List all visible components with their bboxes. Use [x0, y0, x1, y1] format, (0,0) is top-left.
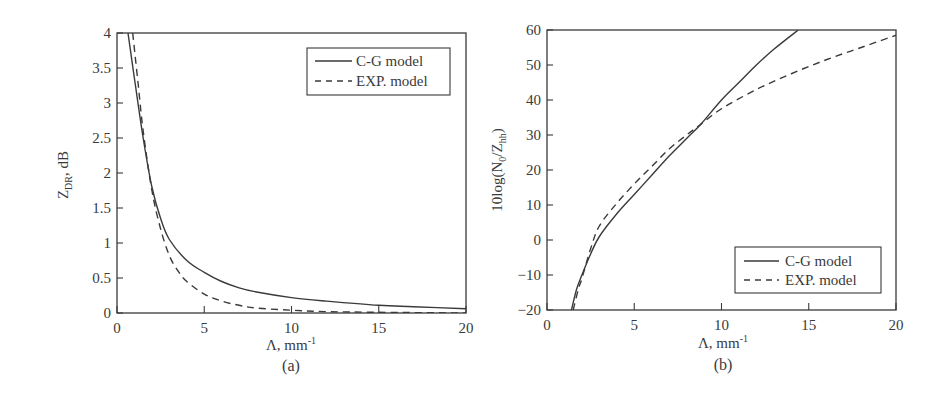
- y-tick-label-a-6: 3: [104, 95, 112, 111]
- chart-panel-b: 05101520−20−100102030405060 10log(N0/Zhh…: [489, 22, 904, 374]
- figure: 0510152000.511.522.533.54 ZDR, dB Λ, mm-…: [0, 0, 948, 403]
- y-label-sub-a: DR: [63, 176, 74, 190]
- x-label-main-a: Λ, mm: [266, 337, 308, 353]
- y-tick-label-a-3: 1.5: [92, 200, 111, 216]
- y-label-main-a: Z: [55, 190, 71, 199]
- x-tick-label-a-2: 10: [284, 320, 299, 336]
- x-tick-label-a-3: 15: [371, 320, 386, 336]
- y-tick-label-a-2: 1: [104, 235, 112, 251]
- y-axis-label-text-a: ZDR, dB: [55, 151, 74, 199]
- legend-label-exp-a: EXP. model: [356, 73, 428, 89]
- x-axis-label-a: Λ, mm-1: [266, 335, 316, 353]
- x-tick-label-a-4: 20: [459, 320, 474, 336]
- x-tick-label-b-3: 15: [801, 317, 816, 333]
- y-tick-label-b-4: 20: [526, 162, 541, 178]
- y-tick-label-b-2: 0: [534, 232, 542, 248]
- y-label-tail-b: ): [489, 128, 506, 133]
- y-tick-label-b-3: 10: [526, 197, 541, 213]
- x-tick-label-b-1: 5: [631, 317, 639, 333]
- y-tick-label-a-8: 4: [104, 25, 112, 41]
- legend-label-cg-b: C-G model: [785, 253, 852, 269]
- x-tick-label-b-2: 10: [714, 317, 729, 333]
- x-tick-label-b-4: 20: [889, 317, 904, 333]
- y-tick-label-b-1: −10: [518, 267, 541, 283]
- x-tick-label-b-0: 0: [543, 317, 551, 333]
- caption-b: (b): [714, 356, 733, 374]
- y-tick-label-a-7: 3.5: [92, 60, 111, 76]
- x-label-main-b: Λ, mm: [698, 335, 740, 351]
- y-axis-label-b: 10log(N0/Zhh): [489, 128, 508, 211]
- caption-a: (a): [282, 357, 300, 375]
- y-label-tail-a: , dB: [55, 151, 71, 176]
- y-tick-label-b-8: 60: [526, 22, 541, 38]
- y-tick-label-b-7: 50: [526, 57, 541, 73]
- y-axis-label-a: ZDR, dB: [55, 151, 74, 199]
- legend-label-cg-a: C-G model: [356, 53, 423, 69]
- y-tick-label-b-5: 30: [526, 127, 541, 143]
- x-label-sup-b: -1: [740, 333, 748, 344]
- x-axis-label-b: Λ, mm-1: [698, 333, 748, 351]
- x-tick-label-a-1: 5: [201, 320, 209, 336]
- y-tick-label-a-0: 0: [104, 305, 112, 321]
- y-tick-label-b-6: 40: [526, 92, 541, 108]
- x-tick-label-a-0: 0: [113, 320, 121, 336]
- y-tick-label-a-5: 2.5: [92, 130, 111, 146]
- legend-a: C-G model EXP. model: [307, 48, 450, 95]
- y-label-main-b: 10log(N: [489, 162, 506, 212]
- y-tick-label-a-1: 0.5: [92, 270, 111, 286]
- y-label-mid-b: /Z: [489, 143, 505, 156]
- y-tick-label-a-4: 2: [104, 165, 112, 181]
- legend-label-exp-b: EXP. model: [785, 272, 857, 288]
- y-tick-label-b-0: −20: [518, 302, 541, 318]
- chart-panel-a: 0510152000.511.522.533.54 ZDR, dB Λ, mm-…: [55, 25, 474, 375]
- x-label-sup-a: -1: [308, 335, 316, 346]
- y-label-sub-b: hh: [497, 133, 508, 143]
- legend-b: C-G model EXP. model: [735, 247, 881, 293]
